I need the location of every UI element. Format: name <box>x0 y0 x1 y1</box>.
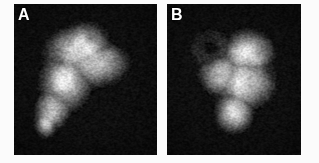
panel-label-a: A <box>18 5 30 24</box>
scan-panel-b[interactable]: B <box>167 4 301 155</box>
scan-panel-a[interactable]: A <box>14 4 157 155</box>
figure-dual-panel-scan: A B <box>0 0 319 163</box>
panel-label-b: B <box>171 5 183 24</box>
scintigram-image-a <box>14 4 157 155</box>
scintigram-image-b <box>167 4 301 155</box>
